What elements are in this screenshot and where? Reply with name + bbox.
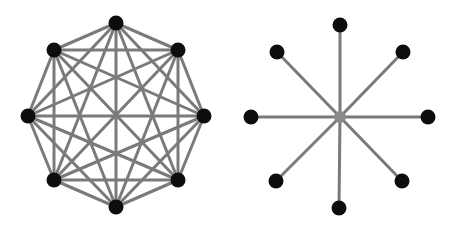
- node: [47, 43, 62, 58]
- graph-diagram: [0, 0, 451, 230]
- node: [197, 109, 212, 124]
- node: [270, 45, 285, 60]
- node: [269, 174, 284, 189]
- node: [332, 201, 347, 216]
- edge: [339, 117, 340, 208]
- hub-node: [334, 111, 346, 123]
- node: [171, 173, 186, 188]
- node: [421, 110, 436, 125]
- edge: [276, 117, 340, 181]
- node: [333, 18, 348, 33]
- node: [244, 110, 259, 125]
- node: [396, 45, 411, 60]
- edge: [340, 52, 403, 117]
- edge: [277, 52, 340, 117]
- complete-graph: [21, 16, 212, 215]
- node: [395, 174, 410, 189]
- node: [47, 173, 62, 188]
- node: [109, 16, 124, 31]
- node: [21, 109, 36, 124]
- edge: [340, 117, 402, 181]
- node: [109, 200, 124, 215]
- node: [171, 43, 186, 58]
- star-graph: [244, 18, 436, 216]
